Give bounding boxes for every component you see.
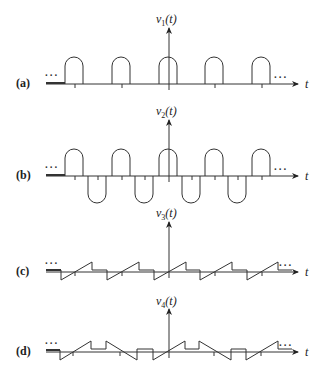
continuation-dots-left-d: ...	[45, 335, 59, 346]
panel-label-d: (d)	[16, 344, 31, 359]
panel-label-b: (b)	[16, 168, 31, 183]
ticks-d	[73, 352, 261, 356]
panel-a-plot	[46, 28, 298, 90]
x-axis-label-b: t	[305, 169, 308, 184]
continuation-dots-right-b: ...	[274, 161, 288, 172]
x-axis-label-c: t	[305, 265, 308, 280]
continuation-dots-right-c: ...	[279, 257, 293, 268]
continuation-dots-right-a: ...	[274, 69, 288, 80]
continuation-dots-left-a: ...	[45, 67, 59, 78]
continuation-dots-right-d: ...	[279, 337, 293, 348]
y-axis-label-c: v3(t)	[156, 206, 177, 222]
x-axis-label-a: t	[305, 77, 308, 92]
y-axis-label-d: v4(t)	[156, 294, 177, 310]
continuation-dots-left-c: ...	[45, 255, 59, 266]
panel-b-plot	[46, 120, 298, 203]
waveform-figure	[0, 0, 321, 383]
y-axis-label-b: v2(t)	[156, 104, 177, 120]
y-axis-label-a: v1(t)	[156, 12, 177, 28]
panel-c-plot	[46, 222, 298, 280]
x-axis-label-d: t	[305, 345, 308, 360]
sawtooth-c	[61, 262, 292, 280]
panel-label-c: (c)	[16, 264, 29, 279]
pulse-train-a	[65, 57, 270, 84]
panel-label-a: (a)	[16, 76, 30, 91]
sawtooth-d	[60, 341, 292, 360]
continuation-dots-left-b: ...	[45, 159, 59, 170]
panel-d-plot	[46, 309, 298, 360]
